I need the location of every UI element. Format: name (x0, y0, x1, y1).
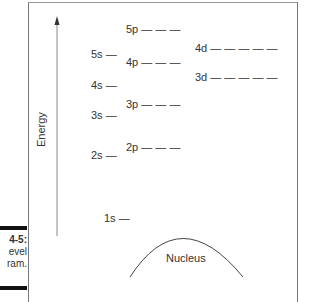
energy-axis-label: Energy (35, 112, 47, 147)
level-4d: 4d — — — — — (195, 42, 278, 54)
level-2p: 2p — — — (126, 141, 180, 153)
level-5s: 5s — (91, 48, 117, 60)
level-4s: 4s — (91, 79, 117, 91)
level-4p: 4p — — — (126, 56, 180, 68)
energy-arrow-icon (55, 16, 60, 236)
level-5p: 5p — — — (126, 23, 180, 35)
level-3s: 3s — (91, 109, 117, 121)
level-2s: 2s — (91, 149, 117, 161)
level-3d: 3d — — — — — (195, 71, 278, 83)
nucleus-label: Nucleus (166, 252, 206, 264)
level-3p: 3p — — — (126, 98, 180, 110)
level-1s: 1s — (104, 212, 130, 224)
